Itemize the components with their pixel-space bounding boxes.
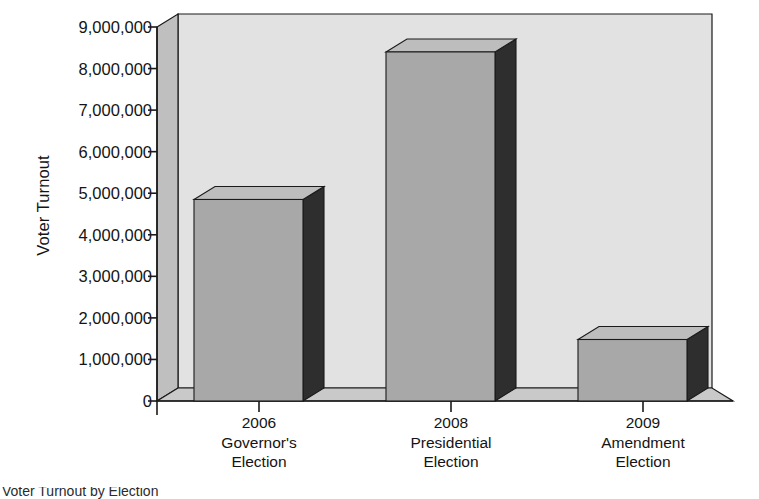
bar-side-face	[495, 39, 516, 401]
bar-top-face	[386, 39, 516, 52]
plot-area	[0, 0, 759, 420]
bar-side-face	[303, 186, 324, 401]
x-axis-category-label: 2008PresidentialElection	[361, 413, 541, 472]
x-axis-category-label: 2006Governor'sElection	[169, 413, 349, 472]
bar-top-face	[578, 326, 708, 339]
plot-left-wall	[157, 14, 178, 401]
bar-2	[386, 39, 516, 401]
bar-front-face	[578, 339, 687, 401]
figure-caption-clipped: Voter Turnout by Election	[0, 487, 759, 499]
category-label-line: 2009	[553, 413, 733, 433]
category-label-line: Amendment	[553, 433, 733, 453]
category-label-line: 2008	[361, 413, 541, 433]
bar-top-face	[194, 186, 324, 199]
category-label-line: Election	[361, 452, 541, 472]
category-label-line: Presidential	[361, 433, 541, 453]
category-label-line: Election	[553, 452, 733, 472]
voter-turnout-bar-chart: Voter Turnout 01,000,0002,000,0003,000,0…	[0, 0, 759, 499]
figure-caption-text: Voter Turnout by Election	[2, 487, 158, 499]
bar-front-face	[386, 52, 495, 401]
x-axis-category-label: 2009AmendmentElection	[553, 413, 733, 472]
bar-1	[194, 186, 324, 401]
category-label-line: Governor's	[169, 433, 349, 453]
bar-front-face	[194, 199, 303, 401]
category-label-line: 2006	[169, 413, 349, 433]
category-label-line: Election	[169, 452, 349, 472]
bar-3	[578, 326, 708, 401]
